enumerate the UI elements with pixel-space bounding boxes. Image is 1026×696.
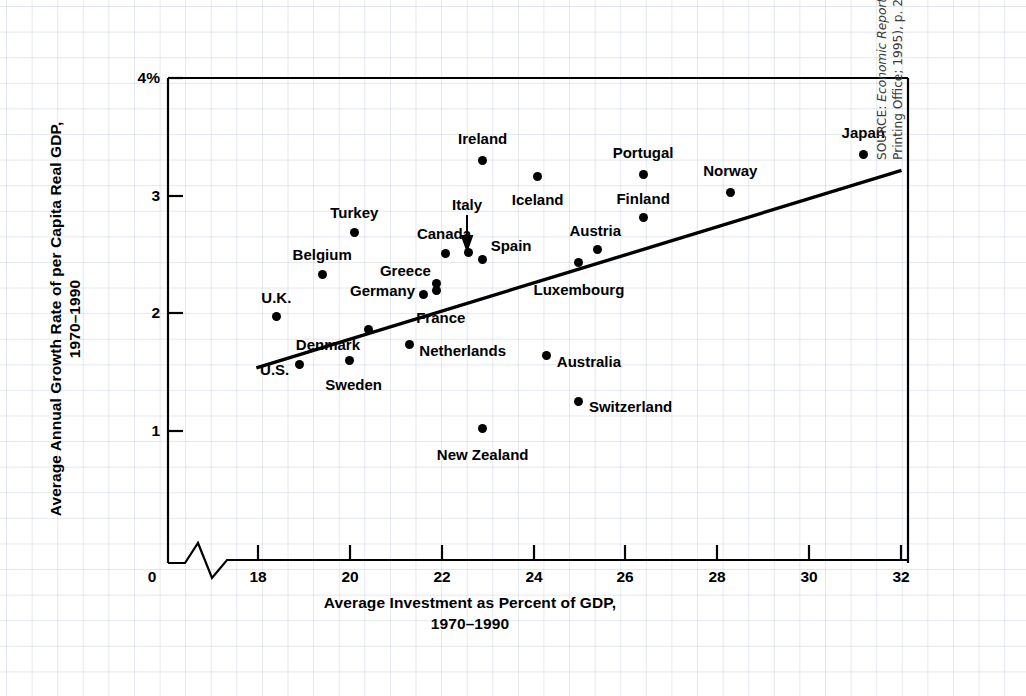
point-label-austria: Austria <box>569 222 621 239</box>
y-tick-label-4: 4% <box>108 69 160 87</box>
x-tick-label-28: 28 <box>708 568 725 586</box>
scatter-chart: 4% 3 2 1 0 18 20 22 24 26 28 30 32 Avera… <box>0 0 940 696</box>
figure-page: 4% 3 2 1 0 18 20 22 24 26 28 30 32 Avera… <box>0 0 1026 696</box>
x-axis-title-line1: Average Investment as Percent of GDP, <box>324 594 616 611</box>
point-label-sweden: Sweden <box>325 376 382 393</box>
point-label-u-k: U.K. <box>261 289 291 306</box>
y-axis-title: Average Annual Growth Rate of per Capita… <box>46 84 84 554</box>
point-label-luxembourg: Luxembourg <box>534 281 625 298</box>
x-tick-label-20: 20 <box>341 568 358 586</box>
point-label-portugal: Portugal <box>613 144 674 161</box>
point-label-france: France <box>416 309 465 326</box>
y-axis-title-line1: Average Annual Growth Rate of per Capita… <box>46 84 65 554</box>
x-tick-label-30: 30 <box>800 568 817 586</box>
x-tick-label-18: 18 <box>249 568 266 586</box>
x-tick-label-22: 22 <box>433 568 450 586</box>
point-label-netherlands: Netherlands <box>419 342 506 359</box>
data-point-spain <box>478 255 487 264</box>
point-label-denmark: Denmark <box>296 336 360 353</box>
data-point-japan <box>859 150 868 159</box>
point-label-ireland: Ireland <box>458 130 507 147</box>
point-label-canada: Canada <box>417 225 471 242</box>
data-point-u-k <box>272 312 281 321</box>
point-label-greece: Greece <box>380 262 431 279</box>
point-label-new-zealand: New Zealand <box>437 446 529 463</box>
source-title: Economic Report of the President <box>875 0 889 102</box>
source-prefix: SOURCE: <box>875 102 889 160</box>
point-label-turkey: Turkey <box>330 204 378 221</box>
data-point-ireland <box>478 156 487 165</box>
x-axis-title-line2: 1970–1990 <box>431 615 509 632</box>
data-point-belgium <box>318 270 327 279</box>
point-label-germany: Germany <box>350 282 415 299</box>
data-point-denmark <box>364 325 373 334</box>
y-tick-label-3: 3 <box>108 187 160 205</box>
data-point-germany <box>419 290 428 299</box>
x-axis-title: Average Investment as Percent of GDP, 19… <box>230 592 710 634</box>
x-tick-label-0: 0 <box>148 568 157 586</box>
x-tick-marks <box>258 545 901 560</box>
point-label-australia: Australia <box>557 353 621 370</box>
point-label-u-s: U.S. <box>260 361 289 378</box>
data-point-austria <box>593 245 602 254</box>
data-point-italy <box>464 248 473 257</box>
data-point-norway <box>726 188 735 197</box>
point-label-finland: Finland <box>616 190 669 207</box>
y-tick-label-1: 1 <box>108 422 160 440</box>
point-label-iceland: Iceland <box>512 191 564 208</box>
y-tick-label-2: 2 <box>108 304 160 322</box>
point-label-italy-callout: Italy <box>452 196 482 213</box>
data-point-sweden <box>345 356 354 365</box>
data-point-turkey <box>350 228 359 237</box>
axis-frame <box>168 78 908 563</box>
point-label-belgium: Belgium <box>293 246 352 263</box>
point-label-spain: Spain <box>491 237 532 254</box>
y-axis-title-line2: 1970–1990 <box>66 280 83 358</box>
data-point-portugal <box>639 170 648 179</box>
point-label-norway: Norway <box>703 162 757 179</box>
y-tick-marks <box>168 78 183 431</box>
source-note: SOURCE: Economic Report of the President… <box>874 0 906 160</box>
x-tick-label-24: 24 <box>525 568 542 586</box>
point-label-switzerland: Switzerland <box>589 398 672 415</box>
x-tick-label-26: 26 <box>616 568 633 586</box>
x-tick-label-32: 32 <box>892 568 909 586</box>
